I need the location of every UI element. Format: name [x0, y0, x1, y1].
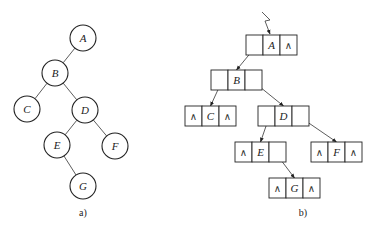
null-pointer-icon: ∧ — [274, 183, 281, 194]
head-pointer-icon — [262, 12, 270, 34]
right-cell — [245, 70, 262, 90]
left-cell — [258, 106, 275, 126]
node-label: C — [207, 110, 215, 122]
node-label: D — [80, 104, 89, 116]
panel-a-tree: ABCDEFG a) — [14, 25, 128, 219]
null-pointer-icon: ∧ — [240, 147, 247, 158]
panel-b-linked-storage: A∧B∧C∧D∧E∧F∧∧G∧ b) — [185, 12, 362, 219]
node-label: E — [53, 139, 61, 151]
node-label: G — [291, 182, 299, 194]
null-pointer-icon: ∧ — [350, 147, 357, 158]
left-cell — [246, 35, 263, 55]
node-label: C — [23, 103, 31, 115]
null-pointer-icon: ∧ — [316, 147, 323, 158]
tree-node-f: F — [102, 133, 128, 159]
tree-edge-b-d — [63, 83, 77, 100]
node-label: A — [79, 32, 87, 44]
linked-node-a: A∧ — [246, 35, 297, 55]
tree-edge-d-f — [93, 120, 106, 136]
linked-node-b: B — [211, 70, 262, 90]
null-pointer-icon: ∧ — [190, 111, 197, 122]
linked-nodes: A∧B∧C∧D∧E∧F∧∧G∧ — [185, 35, 362, 198]
node-label: G — [79, 180, 87, 192]
null-pointer-icon: ∧ — [308, 183, 315, 194]
tree-nodes: ABCDEFG — [14, 25, 128, 199]
tree-edge-e-g — [64, 156, 76, 175]
tree-edge-b-c — [35, 83, 47, 98]
node-label: F — [332, 146, 340, 158]
node-label: D — [279, 110, 288, 122]
tree-node-g: G — [70, 173, 96, 199]
tree-node-a: A — [70, 25, 96, 51]
null-pointer-icon: ∧ — [224, 111, 231, 122]
right-cell — [269, 142, 286, 162]
right-cell — [292, 106, 309, 126]
node-label: E — [256, 146, 264, 158]
binary-tree-diagram: ABCDEFG a) A∧B∧C∧D∧E∧F∧∧G∧ b) — [0, 0, 383, 230]
linked-node-g: ∧G∧ — [269, 178, 320, 198]
tree-node-c: C — [14, 96, 40, 122]
tree-node-b: B — [42, 60, 68, 86]
linked-node-d: D — [258, 106, 309, 126]
tree-node-e: E — [44, 132, 70, 158]
node-label: F — [111, 140, 119, 152]
null-pointer-icon: ∧ — [285, 40, 292, 51]
node-label: A — [267, 39, 275, 51]
linked-node-e: ∧E — [235, 142, 286, 162]
tree-edge-d-e — [65, 120, 77, 135]
tree-node-d: D — [72, 97, 98, 123]
node-label: B — [233, 74, 240, 86]
tree-edge-a-b — [63, 48, 75, 63]
node-label: B — [52, 67, 59, 79]
panel-b-caption: b) — [299, 207, 307, 219]
linked-node-c: ∧C∧ — [185, 106, 236, 126]
linked-node-f: ∧F∧ — [311, 142, 362, 162]
left-cell — [211, 70, 228, 90]
panel-a-caption: a) — [79, 207, 87, 219]
